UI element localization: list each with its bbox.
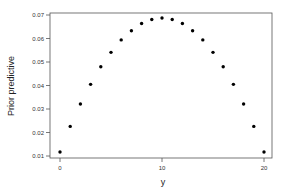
data-point xyxy=(222,65,225,68)
data-point xyxy=(120,38,123,41)
x-tick-label: 10 xyxy=(159,165,166,171)
x-tick-label: 0 xyxy=(58,165,62,171)
y-axis: 0.010.020.030.040.050.060.07 xyxy=(32,12,50,159)
x-tick-label: 20 xyxy=(261,165,268,171)
y-tick-label: 0.05 xyxy=(32,59,44,65)
data-points xyxy=(58,16,265,153)
prior-predictive-chart: 0.010.020.030.040.050.060.07 01020 Prior… xyxy=(0,0,285,194)
data-point xyxy=(140,22,143,25)
data-point xyxy=(242,102,245,105)
data-point xyxy=(171,18,174,21)
y-tick-label: 0.03 xyxy=(32,106,44,112)
y-tick-label: 0.04 xyxy=(32,83,44,89)
x-axis: 01020 xyxy=(58,158,268,171)
data-point xyxy=(160,16,163,19)
data-point xyxy=(58,150,61,153)
data-point xyxy=(211,51,214,54)
data-point xyxy=(79,102,82,105)
data-point xyxy=(191,29,194,32)
data-point xyxy=(99,65,102,68)
data-point xyxy=(181,22,184,25)
data-point xyxy=(109,51,112,54)
y-tick-label: 0.01 xyxy=(32,153,44,159)
y-tick-label: 0.06 xyxy=(32,36,44,42)
y-axis-title: Prior predictive xyxy=(6,56,16,116)
data-point xyxy=(150,18,153,21)
data-point xyxy=(262,150,265,153)
y-tick-label: 0.07 xyxy=(32,12,44,18)
data-point xyxy=(130,29,133,32)
data-point xyxy=(69,125,72,128)
data-point xyxy=(89,83,92,86)
y-tick-label: 0.02 xyxy=(32,130,44,136)
data-point xyxy=(252,125,255,128)
x-axis-title: y xyxy=(161,177,166,187)
plot-frame xyxy=(50,13,272,158)
data-point xyxy=(201,38,204,41)
data-point xyxy=(232,83,235,86)
